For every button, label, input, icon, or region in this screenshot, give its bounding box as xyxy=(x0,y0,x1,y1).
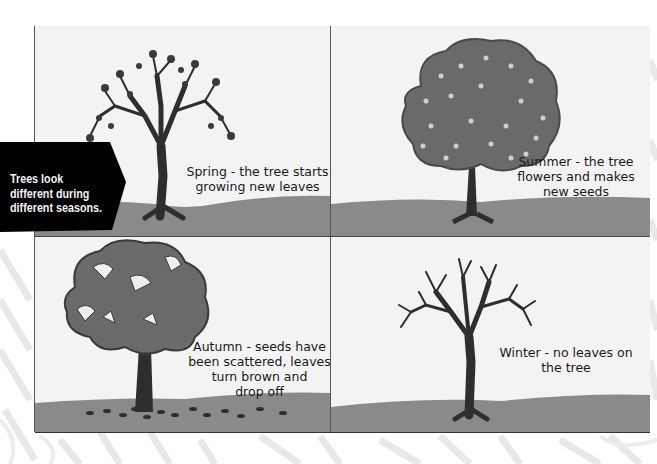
callout-text: Trees look different during different se… xyxy=(10,172,105,216)
spring-caption: Spring - the tree starts growing new lea… xyxy=(185,164,330,194)
caption-line: Spring - the tree starts xyxy=(185,164,330,179)
caption-line: growing new leaves xyxy=(185,179,330,194)
caption-line: Winter - no leaves on xyxy=(491,345,641,360)
callout-line: Trees look xyxy=(10,172,105,187)
autumn-tree-illustration xyxy=(35,237,330,432)
callout-line: different seasons. xyxy=(10,201,105,216)
caption-line: drop off xyxy=(187,384,331,399)
caption-line: been scattered, leaves xyxy=(187,354,331,369)
winter-caption: Winter - no leaves on the tree xyxy=(491,345,641,375)
panel-winter: Winter - no leaves on the tree xyxy=(331,237,650,433)
ground xyxy=(331,395,650,432)
callout-line: different during xyxy=(10,187,105,202)
autumn-caption: Autumn - seeds have been scattered, leav… xyxy=(187,339,331,399)
canopy xyxy=(402,39,559,171)
canopy xyxy=(65,240,209,353)
ground xyxy=(331,197,650,236)
winter-tree-illustration xyxy=(331,237,650,432)
summer-tree-illustration xyxy=(331,26,650,236)
summer-caption: Summer - the tree flowers and makes new … xyxy=(506,154,646,199)
caption-line: the tree xyxy=(491,360,641,375)
caption-line: Summer - the tree xyxy=(506,154,646,169)
panel-summer: Summer - the tree flowers and makes new … xyxy=(331,26,650,237)
caption-line: new seeds xyxy=(506,184,646,199)
caption-line: Autumn - seeds have xyxy=(187,339,331,354)
panel-autumn: Autumn - seeds have been scattered, leav… xyxy=(35,237,331,433)
caption-line: turn brown and xyxy=(187,369,331,384)
caption-line: flowers and makes xyxy=(506,169,646,184)
